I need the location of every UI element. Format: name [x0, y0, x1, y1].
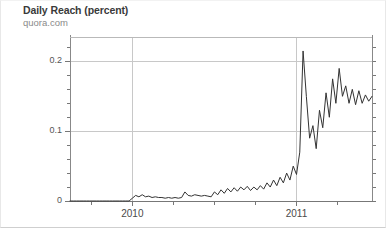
x-axis-tick-label: 2011: [272, 208, 322, 219]
y-axis-tick-label: 0: [32, 195, 62, 205]
y-axis-tick-label: 0.1: [32, 125, 62, 135]
data-series-line: [70, 51, 372, 201]
chart-plot-area: [1, 1, 386, 228]
gridlines: [70, 37, 372, 201]
y-axis-tick-label: 0.2: [32, 55, 62, 65]
axis-spines: [70, 35, 373, 201]
x-axis-tick-label: 2010: [107, 208, 157, 219]
chart-card: Daily Reach (percent) quora.com 00.10.2 …: [0, 0, 386, 228]
axis-ticks: [65, 47, 376, 206]
